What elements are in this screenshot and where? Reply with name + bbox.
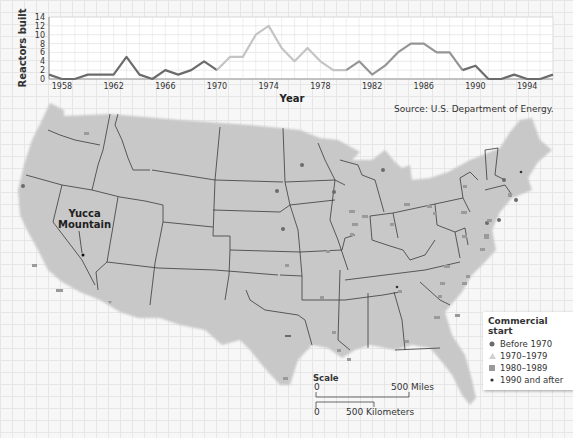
- scale-bars: [316, 392, 409, 408]
- source-note: Source: U.S. Department of Energy.: [394, 104, 554, 114]
- svg-text:1958: 1958: [52, 82, 72, 91]
- x-axis-ticks: 1958196219661970197419781982198619901994: [52, 82, 538, 91]
- svg-text:8: 8: [40, 40, 45, 49]
- svg-text:2: 2: [40, 66, 45, 75]
- legend-item-1990-after: 1990 and after: [488, 374, 568, 386]
- legend-item-1980-1989: 1980–1989: [488, 362, 568, 374]
- reactors-built-chart: 02468101214 1958196219661970197419781982…: [0, 0, 570, 105]
- svg-text:1986: 1986: [414, 82, 434, 91]
- svg-text:14: 14: [35, 13, 45, 22]
- yucca-label-line1: Yucca: [58, 208, 111, 219]
- circle-marker-icon: [488, 341, 496, 347]
- map-legend: Commercial start Before 1970 1970–1979 1…: [483, 312, 573, 390]
- legend-item-before-1970: Before 1970: [488, 338, 568, 350]
- svg-text:1982: 1982: [362, 82, 382, 91]
- scale-km-label: 500 Kilometers: [346, 407, 414, 417]
- scale-miles-zero: 0: [314, 382, 320, 392]
- svg-text:1990: 1990: [465, 82, 485, 91]
- triangle-marker-icon: [488, 353, 496, 359]
- y-axis-label: Reactors built: [17, 8, 28, 87]
- yucca-mountain-point: [82, 254, 85, 257]
- square-marker-icon: [488, 365, 496, 371]
- y-axis-ticks: 02468101214: [35, 13, 45, 84]
- svg-text:0: 0: [40, 75, 45, 84]
- svg-text:4: 4: [40, 57, 45, 66]
- us-land-shape: [18, 103, 552, 405]
- scale-miles-label: 500 Miles: [391, 382, 434, 392]
- legend-item-1970-1979: 1970–1979: [488, 350, 568, 362]
- yucca-mountain-label: Yucca Mountain: [58, 208, 111, 230]
- svg-text:1962: 1962: [103, 82, 123, 91]
- svg-text:1978: 1978: [310, 82, 330, 91]
- scale-km-zero: 0: [314, 407, 320, 417]
- svg-text:1966: 1966: [155, 82, 175, 91]
- svg-text:1974: 1974: [259, 82, 279, 91]
- svg-text:12: 12: [35, 22, 45, 31]
- svg-text:6: 6: [40, 48, 45, 57]
- yucca-label-line2: Mountain: [58, 219, 111, 230]
- chart-grid: [49, 17, 553, 79]
- svg-text:1970: 1970: [207, 82, 227, 91]
- svg-text:10: 10: [35, 31, 45, 40]
- star-marker-icon: [488, 377, 496, 383]
- legend-title: Commercial start: [488, 316, 568, 336]
- svg-text:1994: 1994: [517, 82, 537, 91]
